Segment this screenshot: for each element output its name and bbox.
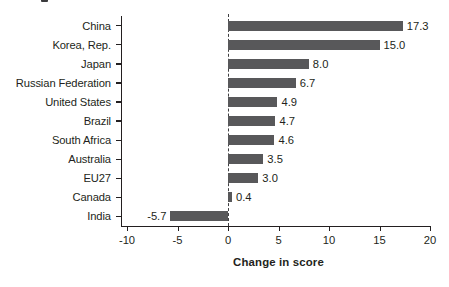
bar[interactable] [228, 40, 380, 50]
bar-row: Russian Federation6.7 [127, 73, 430, 92]
bar-row: Brazil4.7 [127, 111, 430, 130]
bar[interactable] [228, 116, 275, 126]
x-axis-spine [121, 226, 431, 227]
y-axis-tick [116, 25, 121, 26]
bar[interactable] [228, 97, 277, 107]
category-label: EU27 [83, 172, 111, 184]
bar-value-label: 3.0 [262, 172, 278, 184]
bar-row: Korea, Rep.15.0 [127, 35, 430, 54]
x-axis-tick [127, 226, 128, 231]
bar[interactable] [228, 59, 309, 69]
category-label: Brazil [84, 115, 111, 127]
bar-value-label: 4.7 [279, 115, 295, 127]
bar-row: India-5.7 [127, 207, 430, 226]
bar-value-label: 4.6 [278, 134, 294, 146]
x-axis-tick-label: 20 [424, 234, 436, 246]
category-label: Australia [68, 153, 111, 165]
bar-value-label: 0.4 [236, 191, 252, 203]
x-axis-tick-label: 10 [323, 234, 335, 246]
y-axis-tick [116, 63, 121, 64]
bar-row: Canada0.4 [127, 188, 430, 207]
bar-row: Australia3.5 [127, 150, 430, 169]
bar[interactable] [228, 135, 274, 145]
bar-row: EU273.0 [127, 169, 430, 188]
bar[interactable] [228, 192, 232, 202]
y-axis-tick [116, 178, 121, 179]
bar-row: United States4.9 [127, 92, 430, 111]
plot-area: China17.3Korea, Rep.15.0Japan8.0Russian … [127, 16, 430, 226]
x-axis-title: Change in score [127, 256, 430, 268]
bar-value-label: 17.3 [407, 20, 429, 32]
x-axis-tick-label: -10 [119, 234, 135, 246]
category-label: China [82, 20, 111, 32]
y-axis-tick [116, 44, 121, 45]
bar-value-label: 4.9 [281, 96, 297, 108]
x-axis-tick [430, 226, 431, 231]
x-axis-tick [279, 226, 280, 231]
bar-value-label: 8.0 [313, 58, 329, 70]
bar-row: China17.3 [127, 16, 430, 35]
x-axis-tick [228, 226, 229, 231]
bar-row: South Africa4.6 [127, 131, 430, 150]
y-axis-tick [116, 82, 121, 83]
category-label: Korea, Rep. [52, 39, 111, 51]
category-label: Russian Federation [16, 77, 111, 89]
category-label: South Africa [52, 134, 111, 146]
x-axis-tick-label: 5 [275, 234, 281, 246]
y-axis-tick [116, 159, 121, 160]
bar[interactable] [228, 21, 403, 31]
bar[interactable] [170, 211, 228, 221]
x-axis-tick-label: 0 [225, 234, 231, 246]
y-axis-spine [121, 16, 122, 226]
bar-value-label: 6.7 [300, 77, 316, 89]
bar[interactable] [228, 173, 258, 183]
clipped-title-fragment [41, 0, 48, 2]
bar[interactable] [228, 78, 296, 88]
category-label: Japan [81, 58, 111, 70]
bar-value-label: 3.5 [267, 153, 283, 165]
y-axis-tick [116, 101, 121, 102]
bar-value-label: 15.0 [384, 39, 406, 51]
y-axis-tick [116, 140, 121, 141]
category-label: India [87, 210, 111, 222]
x-axis-tick [178, 226, 179, 231]
x-axis-tick-label: -5 [173, 234, 183, 246]
category-label: United States [45, 96, 111, 108]
x-axis-tick [329, 226, 330, 231]
bar[interactable] [228, 154, 263, 164]
y-axis-tick [116, 216, 121, 217]
y-axis-tick [116, 197, 121, 198]
bar-value-label: -5.7 [147, 210, 166, 222]
x-axis-tick [380, 226, 381, 231]
x-axis-tick-label: 15 [373, 234, 385, 246]
y-axis-tick [116, 120, 121, 121]
chart-figure: China17.3Korea, Rep.15.0Japan8.0Russian … [0, 0, 449, 287]
bar-row: Japan8.0 [127, 54, 430, 73]
category-label: Canada [72, 191, 111, 203]
